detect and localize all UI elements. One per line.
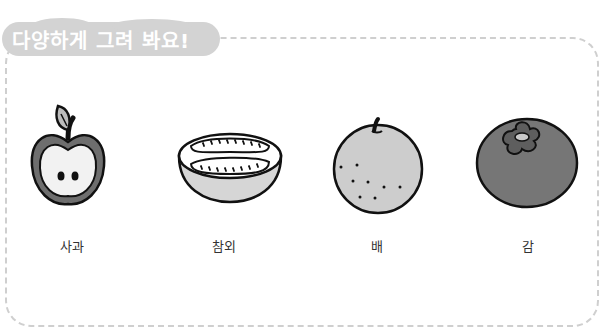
- pear-icon: [328, 115, 428, 215]
- melon-icon: [175, 130, 285, 205]
- title-badge: 다양하게 그려 봐요!: [2, 22, 220, 56]
- page-title: 다양하게 그려 봐요!: [12, 25, 190, 54]
- fruit-label-melon: 참외: [212, 236, 236, 255]
- fruit-label-persimmon: 감: [522, 236, 534, 255]
- fruit-label-apple: 사과: [60, 236, 84, 255]
- apple-icon: [28, 100, 108, 210]
- fruit-label-pear: 배: [371, 236, 383, 255]
- persimmon-icon: [472, 115, 582, 210]
